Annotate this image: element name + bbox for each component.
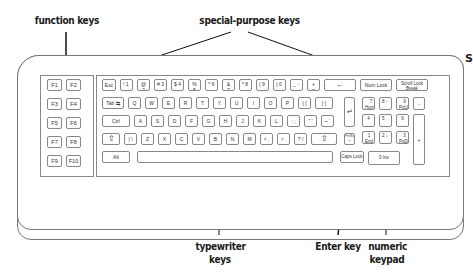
key-num7[interactable]: 7 Home: [362, 97, 375, 110]
key-f2[interactable]: F2: [66, 79, 81, 91]
key-k[interactable]: K: [253, 115, 266, 127]
key-j[interactable]: J: [236, 115, 249, 127]
key-w[interactable]: W: [145, 97, 158, 109]
key-equals[interactable]: + =: [307, 79, 320, 91]
key-0[interactable]: ) 0: [273, 79, 286, 91]
key-9[interactable]: ( 9: [256, 79, 269, 91]
key-f6[interactable]: F6: [66, 117, 81, 129]
key-backtick[interactable]: ~ `: [321, 115, 334, 127]
key-f[interactable]: F: [185, 115, 198, 127]
key-f9[interactable]: F9: [47, 155, 62, 167]
key-4[interactable]: $ 4: [171, 79, 184, 91]
key-right-shift[interactable]: ⇧: [311, 133, 337, 145]
key-scroll-lock[interactable]: Scroll Lock Break: [396, 79, 428, 91]
key-f7[interactable]: F7: [47, 136, 62, 148]
key-g[interactable]: G: [202, 115, 215, 127]
key-semicolon[interactable]: : ;: [287, 115, 300, 127]
typewriter-line1: typewriter: [195, 240, 244, 253]
key-ctrl[interactable]: Ctrl: [102, 115, 130, 127]
key-q[interactable]: Q: [128, 97, 141, 109]
key-a[interactable]: A: [134, 115, 147, 127]
numeric-line2: keypad: [368, 253, 406, 266]
key-f10[interactable]: F10: [66, 155, 81, 167]
enter-key-label: Enter key: [315, 240, 361, 253]
cut-off-label: S: [465, 52, 473, 65]
key-h[interactable]: H: [219, 115, 232, 127]
key-num-lock[interactable]: Num Lock: [360, 79, 392, 91]
key-backslash[interactable]: | \: [124, 133, 137, 145]
key-minus[interactable]: _ -: [290, 79, 303, 91]
key-tab[interactable]: Tab ⇆: [102, 97, 124, 109]
key-8[interactable]: * 8: [239, 79, 252, 91]
key-r[interactable]: R: [179, 97, 192, 109]
key-num-minus[interactable]: -: [413, 97, 425, 110]
key-backspace[interactable]: ←: [324, 79, 356, 91]
key-i[interactable]: I: [247, 97, 260, 109]
typewriter-keys-label: typewriter keys: [195, 240, 244, 266]
key-p[interactable]: P: [281, 97, 294, 109]
key-m[interactable]: M: [243, 133, 256, 145]
key-num6[interactable]: 6 →: [396, 114, 409, 127]
key-u[interactable]: U: [230, 97, 243, 109]
key-f3[interactable]: F3: [47, 98, 62, 110]
key-num2[interactable]: 2 ↓: [379, 131, 392, 144]
key-d[interactable]: D: [168, 115, 181, 127]
key-7[interactable]: & 7: [222, 79, 235, 91]
key-num8[interactable]: 8 ↑: [379, 97, 392, 110]
key-5[interactable]: % 5: [188, 79, 201, 91]
key-spacebar[interactable]: [137, 151, 333, 163]
key-num1[interactable]: 1 End: [362, 131, 375, 144]
key-num9[interactable]: 9 PgUp: [396, 97, 409, 110]
key-s[interactable]: S: [151, 115, 164, 127]
key-f5[interactable]: F5: [47, 117, 62, 129]
key-z[interactable]: Z: [141, 133, 154, 145]
key-enter[interactable]: ↵: [344, 97, 355, 127]
key-e[interactable]: E: [162, 97, 175, 109]
key-esc[interactable]: Esc: [102, 79, 116, 91]
key-num-plus[interactable]: +: [413, 114, 425, 165]
key-c[interactable]: C: [175, 133, 188, 145]
key-6[interactable]: ^ 6: [205, 79, 218, 91]
key-v[interactable]: V: [192, 133, 205, 145]
key-caps-lock[interactable]: Caps Lock: [340, 151, 364, 163]
key-left-bracket[interactable]: { [: [298, 97, 311, 109]
key-alt[interactable]: Alt: [102, 151, 130, 163]
key-comma[interactable]: < ,: [260, 133, 273, 145]
key-2[interactable]: @ 2: [137, 79, 150, 91]
key-1[interactable]: ! 1: [120, 79, 133, 91]
key-right-bracket[interactable]: } ]: [315, 97, 333, 109]
numeric-keypad-label: numeric keypad: [368, 240, 406, 266]
key-num5[interactable]: 5: [379, 114, 392, 127]
key-y[interactable]: Y: [213, 97, 226, 109]
key-l[interactable]: L: [270, 115, 283, 127]
key-num3[interactable]: 3 PgDn: [396, 131, 409, 144]
key-quote[interactable]: " ': [304, 115, 317, 127]
function-keys-label: function keys: [35, 14, 97, 27]
key-slash[interactable]: ? /: [294, 133, 307, 145]
key-prtsc[interactable]: PrtSc *: [344, 133, 355, 145]
key-n[interactable]: N: [226, 133, 239, 145]
key-f4[interactable]: F4: [66, 98, 81, 110]
key-period[interactable]: > .: [277, 133, 290, 145]
key-b[interactable]: B: [209, 133, 222, 145]
special-purpose-keys-label: special-purpose keys: [199, 14, 284, 27]
key-left-shift[interactable]: ⇧: [102, 133, 120, 145]
typewriter-line2: keys: [195, 253, 244, 266]
key-f1[interactable]: F1: [47, 79, 62, 91]
key-f8[interactable]: F8: [66, 136, 81, 148]
key-num0[interactable]: 0 Ins: [368, 151, 400, 165]
key-3[interactable]: # 3: [154, 79, 167, 91]
key-o[interactable]: O: [264, 97, 277, 109]
key-num4[interactable]: 4 ←: [362, 114, 375, 127]
numeric-line1: numeric: [368, 240, 406, 253]
key-x[interactable]: X: [158, 133, 171, 145]
key-t[interactable]: T: [196, 97, 209, 109]
